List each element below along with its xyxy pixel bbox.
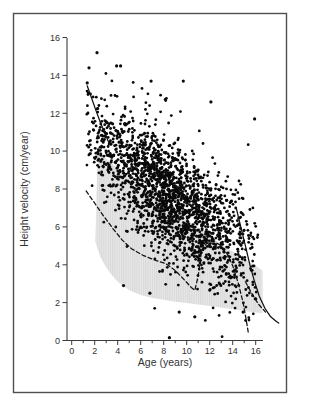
data-point [96,151,99,154]
data-point [239,216,242,219]
data-point [216,271,219,274]
data-point [164,283,167,286]
data-point [206,174,209,177]
data-point [115,144,118,147]
data-point [169,253,172,256]
data-point [136,220,139,223]
data-point [170,114,173,117]
data-point [155,202,158,205]
data-point [145,101,148,104]
data-point [198,130,201,133]
data-point [142,141,145,144]
data-point [217,208,220,211]
data-point [161,231,164,234]
data-point [230,216,233,219]
data-point [111,133,114,136]
data-point [192,223,195,226]
data-point [101,174,104,177]
data-point [133,208,136,211]
data-point [124,105,127,108]
data-point [204,184,207,187]
data-point [161,190,164,193]
data-point [182,269,185,272]
data-point [183,246,186,249]
data-point [132,96,135,99]
data-point [223,226,226,229]
data-point [117,196,120,199]
data-point [231,230,234,233]
data-point [214,187,217,190]
data-point [180,197,183,200]
data-point [198,191,201,194]
data-point [191,242,194,245]
data-point [173,236,176,239]
data-point [225,228,228,231]
data-point [97,148,100,151]
data-point [217,171,220,174]
data-point [89,143,92,146]
data-point [191,240,194,243]
data-point [103,123,106,126]
data-point [199,210,202,213]
data-point [146,112,149,115]
data-point [157,157,160,160]
data-point [204,319,207,322]
data-point [210,194,213,197]
data-point [167,207,170,210]
y-tick-label: 12 [50,109,60,119]
data-point [186,205,189,208]
data-point [212,257,215,260]
data-point [162,139,165,142]
data-point [213,247,216,250]
data-point [213,211,216,214]
data-point [220,275,223,278]
data-point [207,210,210,213]
data-point [146,147,149,150]
data-point [148,104,151,107]
data-point [143,152,146,155]
data-point [131,117,134,120]
data-point [152,249,155,252]
data-point [123,193,126,196]
data-point [188,248,191,251]
data-point [122,186,125,189]
data-point [136,225,139,228]
data-point [86,104,89,107]
data-point [102,221,105,224]
data-point [176,258,179,261]
data-point [198,204,201,207]
data-point [190,205,193,208]
data-point [148,181,151,184]
data-point [243,256,246,259]
data-point [176,196,179,199]
data-point [219,259,222,262]
data-point [203,208,206,211]
data-point [105,151,108,154]
data-point [205,253,208,256]
data-point [235,257,238,260]
data-point [184,159,187,162]
data-point [234,253,237,256]
data-point [212,267,215,270]
data-point [130,160,133,163]
data-point [198,206,201,209]
data-point [154,238,157,241]
data-point [161,270,164,273]
data-point [202,202,205,205]
data-point [222,270,225,273]
data-point [251,265,254,268]
data-point [164,208,167,211]
data-point [184,199,187,202]
data-point [234,201,237,204]
data-point [256,234,259,237]
data-point [173,211,176,214]
data-point [175,255,178,258]
data-point [140,194,143,197]
data-point [171,152,174,155]
x-tick-label: 12 [205,346,215,356]
data-point [134,152,137,155]
data-point [240,261,243,264]
data-point [148,205,151,208]
data-point [96,141,99,144]
data-point [247,241,250,244]
